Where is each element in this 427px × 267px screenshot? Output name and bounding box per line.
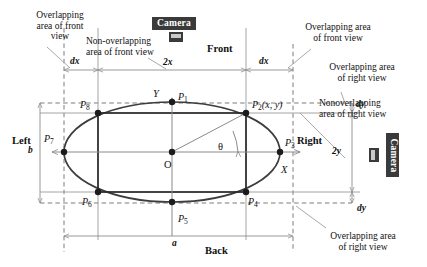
dimension-label-dy-top: dy	[356, 99, 365, 110]
axis-label-x: X	[281, 164, 287, 176]
point-label-p6: P6	[82, 196, 92, 209]
coordinate-axes	[52, 98, 300, 236]
point-label-p7: P7	[44, 133, 54, 146]
camera-right-icon	[369, 148, 379, 162]
dimension-label-dy-bottom: dy	[357, 203, 366, 214]
dimension-label-b: b	[28, 145, 33, 156]
point-p4-dot	[243, 189, 249, 195]
point-label-p8: P8	[80, 99, 90, 112]
point-label-p4: P4	[248, 196, 258, 209]
point-p7-dot	[61, 149, 67, 155]
camera-top-label: Camera	[152, 17, 196, 30]
annotation-overlap-right-bottom: Overlapping area of right view	[307, 231, 419, 252]
point-p1-dot	[169, 99, 175, 105]
leader-overlap-front-left	[47, 47, 70, 68]
dimension-label-dx-right: dx	[259, 56, 269, 67]
annotation-nonoverlap-right: Nonoverlapping area of right view	[319, 98, 427, 119]
point-origin-dot	[169, 149, 175, 155]
point-label-p3: P3	[285, 137, 295, 150]
side-label-front: Front	[207, 43, 232, 55]
point-p5-dot	[169, 199, 175, 205]
axis-label-y: Y	[153, 88, 159, 100]
annotation-overlap-front-right: Overlapping area of front view	[283, 22, 393, 43]
origin-label: O	[164, 159, 172, 171]
camera-top-icon	[169, 32, 183, 42]
point-p8-dot	[95, 110, 101, 116]
side-label-right: Right	[297, 135, 322, 147]
theta-arc	[233, 131, 238, 152]
annotation-overlap-right-top: Overlapping area of right view	[306, 62, 418, 83]
radius-line-to-p2	[172, 113, 246, 152]
side-label-back: Back	[205, 245, 228, 257]
diagram-canvas: Overlapping area of front view Non-overl…	[0, 0, 427, 267]
dimension-label-2y: 2y	[332, 146, 341, 157]
point-p6-dot	[95, 189, 101, 195]
point-p3-dot	[277, 149, 283, 155]
leader-overlap-right-bottom	[296, 206, 326, 228]
dimension-label-a: a	[172, 238, 177, 249]
point-p2-dot	[243, 110, 249, 116]
point-label-p1: P1	[178, 91, 188, 104]
angle-label-theta: θ	[218, 141, 223, 153]
dimension-lines	[40, 70, 352, 236]
dimension-label-2x: 2x	[163, 57, 173, 68]
camera-right-label: Camera	[386, 133, 399, 177]
dimension-label-dx-left: dx	[70, 56, 80, 67]
point-label-p2: P2(x, y)	[252, 99, 282, 112]
point-label-p5: P5	[178, 213, 188, 226]
